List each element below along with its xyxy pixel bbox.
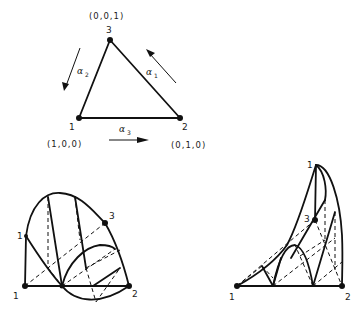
alpha-1-symbol: α <box>146 67 152 77</box>
right-label-2: 2 <box>345 292 351 302</box>
left-label-3: 3 <box>109 211 115 221</box>
vertex-3-dot <box>107 37 113 43</box>
vertex-1-dot <box>76 115 82 121</box>
vertex-1-coords: (1,0,0) <box>47 139 82 149</box>
triangle-edges <box>79 40 180 118</box>
surface-figure-left: 1 1 2 3 <box>13 193 138 302</box>
right-label-1: 1 <box>229 292 235 302</box>
vertex-3-coords: (0,0,1) <box>89 11 124 21</box>
simplex-triangle: 3 (0,0,1) 1 (1,0,0) 2 (0,1,0) α 2 α 1 α … <box>47 11 206 150</box>
alpha-1-subscript: 1 <box>154 72 158 79</box>
surface-figure-right: 1 1 2 3 <box>229 160 351 302</box>
left-label-2: 2 <box>132 289 138 299</box>
left-vertex-1-dot <box>22 283 28 289</box>
left-mid-dot <box>60 284 65 289</box>
left-label-1: 1 <box>13 291 19 301</box>
alpha-2-subscript: 2 <box>85 71 89 78</box>
alpha-3-symbol: α <box>119 124 125 134</box>
right-label-3: 3 <box>304 214 310 224</box>
right-vertex-2-dot <box>339 283 345 289</box>
left-vertex-3-dot <box>102 220 108 226</box>
diagram-canvas: 3 (0,0,1) 1 (1,0,0) 2 (0,1,0) α 2 α 1 α … <box>0 0 361 314</box>
alpha-2-arrow: α 2 <box>62 48 89 91</box>
left-label-1-upper: 1 <box>17 231 23 241</box>
alpha-3-subscript: 3 <box>127 129 131 136</box>
alpha-1-arrow: α 1 <box>146 49 176 83</box>
vertex-2-coords: (0,1,0) <box>171 140 206 150</box>
vertex-1-label: 1 <box>69 122 75 132</box>
right-vertex-3-dot <box>312 217 318 223</box>
vertex-2-label: 2 <box>182 122 188 132</box>
alpha-2-symbol: α <box>77 66 83 76</box>
right-vertex-1-dot <box>234 283 240 289</box>
left-vertex-1-upper-dot <box>24 234 28 238</box>
vertex-2-dot <box>177 115 183 121</box>
alpha-3-arrow: α 3 <box>109 124 149 143</box>
vertex-3-label: 3 <box>106 25 112 35</box>
right-label-1-top: 1 <box>307 160 313 170</box>
